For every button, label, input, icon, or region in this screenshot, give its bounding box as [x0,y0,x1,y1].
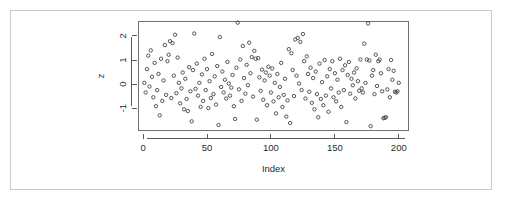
data-point [388,96,391,99]
data-point [144,91,147,94]
data-point [262,98,265,101]
data-point [240,99,243,102]
data-point [392,69,395,72]
data-point [292,94,295,97]
data-point [325,75,328,78]
data-point [239,58,242,61]
y-axis-title: z [95,73,106,78]
data-point [181,71,184,74]
data-point [163,43,166,46]
data-point [249,72,252,75]
data-point [164,93,167,96]
data-point [223,78,226,81]
data-point [277,96,280,99]
data-point [370,74,373,77]
data-point [210,52,213,55]
data-point [324,94,327,97]
data-point [196,94,199,97]
data-point [309,66,312,69]
data-point [359,58,362,61]
data-point [244,92,247,95]
data-point [327,110,330,113]
data-point [227,82,230,85]
data-point [342,88,345,91]
data-points-layer [143,21,401,128]
data-point [386,88,389,91]
data-point [171,41,174,44]
data-point [375,84,378,87]
data-point [387,67,390,70]
x-axis-tick-label: 50 [202,142,213,153]
data-point [153,61,156,64]
data-point [337,91,340,94]
data-point [323,58,326,61]
data-point [242,76,245,79]
data-point [176,56,179,59]
y-axis-tick-label: 1 [117,57,128,62]
y-axis-tick-labels: -1012 [117,33,128,112]
data-point [208,79,211,82]
data-point [345,120,348,123]
data-point [343,64,346,67]
scatter-plot-figure: 050100150200 Index -1012 z [0,0,507,202]
data-point [391,78,394,81]
data-point [336,78,339,81]
data-point [246,84,249,87]
data-point [364,81,367,84]
data-point [166,60,169,63]
y-axis-tick-label: 2 [117,33,128,38]
data-point [194,87,197,90]
data-point [143,81,146,84]
data-point [161,99,164,102]
scatter-plot-svg: 050100150200 Index -1012 z [0,0,507,202]
data-point [228,94,231,97]
data-point [231,73,234,76]
data-point [251,95,254,98]
data-point [363,42,366,45]
data-point [366,22,369,25]
data-point [245,63,248,66]
x-axis: 050100150200 Index [140,134,406,175]
data-point [265,104,268,107]
data-point [170,96,173,99]
data-point [235,66,238,69]
data-point [232,105,235,108]
data-point [276,72,279,75]
data-point [263,79,266,82]
data-point [341,68,344,71]
data-point [217,123,220,126]
x-axis-tick-label: 100 [263,142,279,153]
data-point [329,87,332,90]
data-point [184,77,187,80]
data-point [297,82,300,85]
data-point [356,79,359,82]
data-point [285,115,288,118]
plot-box-frame [139,22,409,131]
data-point [360,87,363,90]
data-point [200,73,203,76]
y-axis-tick-label: 0 [117,81,128,86]
data-point [150,75,153,78]
y-axis: -1012 z [95,33,137,112]
data-point [175,92,178,95]
data-point [290,52,293,55]
data-point [306,72,309,75]
data-point [213,75,216,78]
data-point [258,76,261,79]
data-point [250,55,253,58]
data-point [320,80,323,83]
data-point [299,40,302,43]
data-point [308,90,311,93]
data-point [389,58,392,61]
data-point [374,53,377,56]
data-point [152,96,155,99]
data-point [186,109,189,112]
data-point [313,108,316,111]
data-point [305,55,308,58]
data-point [253,49,256,52]
data-point [349,92,352,95]
y-axis-ticks [132,36,137,108]
data-point [178,102,181,105]
data-point [273,81,276,84]
data-point [191,68,194,71]
